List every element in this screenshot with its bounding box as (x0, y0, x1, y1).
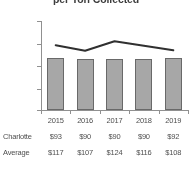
table-row-average: Average $117 $107 $124 $116 $108 (0, 144, 192, 160)
charlotte-value: $93 (41, 132, 70, 141)
charlotte-value: $90 (100, 132, 129, 141)
row-label-charlotte: Charlotte (0, 132, 41, 141)
year-cell: 2018 (129, 116, 158, 125)
data-table: 2015 2016 2017 2018 2019 Charlotte $93 $… (0, 112, 192, 160)
average-value: $116 (129, 148, 158, 157)
year-cell: 2015 (41, 116, 70, 125)
chart-figure: per Ton Collected $160 $120 $80 $40 $0 2… (0, 0, 192, 170)
table-row-charlotte: Charlotte $93 $90 $90 $90 $92 (0, 128, 192, 144)
charlotte-value: $92 (159, 132, 188, 141)
average-value: $124 (100, 148, 129, 157)
chart-title: per Ton Collected (0, 0, 192, 5)
line-series (41, 21, 188, 111)
average-value: $108 (159, 148, 188, 157)
year-cell: 2017 (100, 116, 129, 125)
table-row-years: 2015 2016 2017 2018 2019 (0, 112, 192, 128)
year-cell: 2019 (159, 116, 188, 125)
plot-area (41, 21, 188, 111)
charlotte-value: $90 (70, 132, 99, 141)
year-cell: 2016 (70, 116, 99, 125)
average-value: $107 (70, 148, 99, 157)
average-value: $117 (41, 148, 70, 157)
row-label-average: Average (0, 148, 41, 157)
charlotte-value: $90 (129, 132, 158, 141)
